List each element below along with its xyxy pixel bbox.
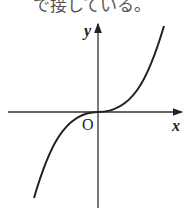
x-axis-label: x — [171, 117, 180, 134]
cubic-graph: y O x — [0, 0, 184, 208]
origin-label: O — [82, 116, 94, 133]
y-axis-label: y — [82, 22, 92, 40]
